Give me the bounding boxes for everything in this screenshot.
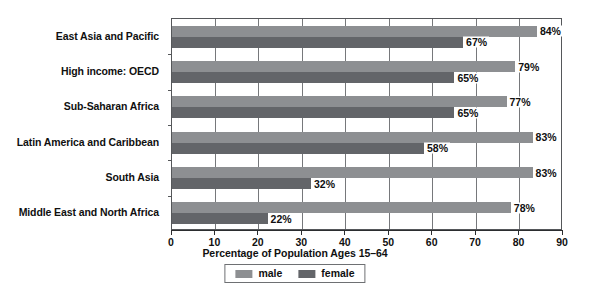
x-axis-tick: [344, 230, 345, 235]
bar-group: 77%65%: [172, 96, 561, 118]
legend-label: female: [321, 268, 354, 279]
bar-female[interactable]: [172, 37, 463, 48]
category-axis-labels: East Asia and PacificHigh income: OECDSu…: [0, 18, 165, 230]
bar-row-female: 65%: [172, 72, 563, 83]
gridline: [302, 19, 303, 229]
gridline: [432, 19, 433, 229]
x-axis-tick: [431, 230, 432, 235]
bar-value-label: 77%: [507, 96, 533, 107]
gridline: [258, 19, 259, 229]
bar-group: 78%22%: [172, 202, 561, 224]
bar-value-label: 84%: [537, 26, 563, 37]
legend-swatch-female: [298, 270, 315, 278]
y-axis-tick: [168, 125, 172, 126]
category-label: High income: OECD: [0, 65, 159, 77]
legend-item-male[interactable]: male: [235, 268, 282, 279]
bar-value-label: 58%: [424, 143, 450, 154]
x-axis-tick: [562, 230, 563, 235]
category-label: South Asia: [0, 171, 159, 183]
legend-swatch-male: [235, 270, 252, 278]
bar-group: 84%67%: [172, 26, 561, 48]
bar-value-label: 78%: [511, 202, 537, 213]
bar-female[interactable]: [172, 143, 424, 154]
bar-value-label: 79%: [515, 61, 541, 72]
x-axis-tick: [301, 230, 302, 235]
bar-row-female: 58%: [172, 143, 563, 154]
x-axis-tick: [388, 230, 389, 235]
bar-row-male: 83%: [172, 132, 563, 143]
category-label: East Asia and Pacific: [0, 30, 159, 42]
bar-value-label: 65%: [454, 107, 480, 118]
bar-female[interactable]: [172, 178, 311, 189]
bar-female[interactable]: [172, 213, 268, 224]
gridline: [215, 19, 216, 229]
gridline: [519, 19, 520, 229]
x-axis: 0102030405060708090: [171, 230, 562, 231]
bar-row-male: 83%: [172, 167, 563, 178]
legend-label: male: [258, 268, 282, 279]
bar-female[interactable]: [172, 107, 454, 118]
plot-area: 84%67%79%65%77%65%83%58%83%32%78%22%: [171, 18, 562, 230]
gridline: [389, 19, 390, 229]
x-axis-tick: [475, 230, 476, 235]
category-label: Latin America and Caribbean: [0, 136, 159, 148]
bar-male[interactable]: [172, 167, 533, 178]
bar-male[interactable]: [172, 202, 511, 213]
bar-row-female: 32%: [172, 178, 563, 189]
bar-row-male: 79%: [172, 61, 563, 72]
bar-value-label: 83%: [533, 132, 559, 143]
x-axis-tick: [257, 230, 258, 235]
x-axis-title: Percentage of Population Ages 15–64: [0, 247, 590, 259]
bar-female[interactable]: [172, 72, 454, 83]
chart-legend: malefemale: [224, 264, 365, 283]
y-axis-tick: [168, 54, 172, 55]
bar-group: 83%32%: [172, 167, 561, 189]
bar-value-label: 65%: [454, 72, 480, 83]
category-label: Middle East and North Africa: [0, 206, 159, 218]
bar-row-female: 22%: [172, 213, 563, 224]
gridline: [476, 19, 477, 229]
gridline: [345, 19, 346, 229]
y-axis-tick: [168, 196, 172, 197]
bar-male[interactable]: [172, 96, 507, 107]
bar-chart: East Asia and PacificHigh income: OECDSu…: [0, 0, 590, 296]
bar-row-female: 65%: [172, 107, 563, 118]
x-axis-tick: [214, 230, 215, 235]
legend-item-female[interactable]: female: [298, 268, 354, 279]
x-axis-tick: [518, 230, 519, 235]
bar-row-male: 78%: [172, 202, 563, 213]
bar-row-male: 77%: [172, 96, 563, 107]
bar-value-label: 22%: [268, 213, 294, 224]
bar-group: 83%58%: [172, 132, 561, 154]
bar-row-male: 84%: [172, 26, 563, 37]
x-axis-tick: [171, 230, 172, 235]
bar-male[interactable]: [172, 132, 533, 143]
bar-group: 79%65%: [172, 61, 561, 83]
bar-value-label: 83%: [533, 167, 559, 178]
y-axis-tick: [168, 90, 172, 91]
category-label: Sub-Saharan Africa: [0, 100, 159, 112]
bar-row-female: 67%: [172, 37, 563, 48]
bar-value-label: 67%: [463, 37, 489, 48]
y-axis-tick: [168, 160, 172, 161]
bar-value-label: 32%: [311, 178, 337, 189]
